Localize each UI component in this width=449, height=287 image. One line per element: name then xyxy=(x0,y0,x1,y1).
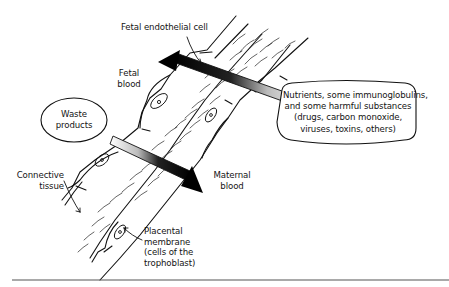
label-nutrients-line3: (drugs, carbon monoxide, xyxy=(283,112,413,123)
label-nutrients-line1: Nutrients, some immunoglobulins, xyxy=(283,90,413,101)
label-connective-tissue: Connective tissue xyxy=(6,170,64,191)
vessel-drawing xyxy=(0,0,449,287)
label-placental-line1: Placental xyxy=(144,226,195,237)
label-waste-products: Waste products xyxy=(50,109,98,130)
label-maternal-blood: Maternal blood xyxy=(210,170,254,191)
label-fetal-blood-line1: Fetal xyxy=(114,68,144,79)
label-nutrients: Nutrients, some immunoglobulins, and som… xyxy=(283,90,413,135)
label-placental-membrane: Placental membrane (cells of the trophob… xyxy=(144,226,195,268)
label-nutrients-line2: and some harmful substances xyxy=(283,101,413,112)
label-waste-line1: Waste xyxy=(50,109,98,120)
waste-arrow xyxy=(110,136,203,193)
label-waste-line2: products xyxy=(50,120,98,131)
label-connective-line1: Connective xyxy=(6,170,64,181)
label-maternal-line2: blood xyxy=(210,181,254,192)
label-fetal-blood: Fetal blood xyxy=(114,68,144,89)
label-nutrients-line4: viruses, toxins, others) xyxy=(283,124,413,135)
placenta-diagram: Fetal endothelial cell Fetal blood Waste… xyxy=(0,0,449,287)
label-fetal-endothelial-cell: Fetal endothelial cell xyxy=(121,22,208,33)
label-maternal-line1: Maternal xyxy=(210,170,254,181)
label-placental-line2: membrane xyxy=(144,237,195,248)
label-fetal-blood-line2: blood xyxy=(114,79,144,90)
label-placental-line4: trophoblast) xyxy=(144,258,195,269)
label-connective-line2: tissue xyxy=(6,181,64,192)
label-placental-line3: (cells of the xyxy=(144,247,195,258)
